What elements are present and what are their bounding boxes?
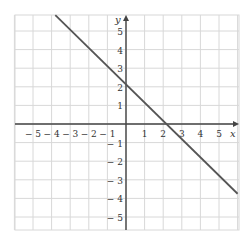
x-tick-label: 5: [216, 129, 222, 139]
y-tick-label: 1: [117, 101, 123, 111]
x-tick-label: 1: [142, 129, 148, 139]
y-tick-label: − 5: [107, 213, 123, 223]
data-line: [55, 15, 237, 194]
y-tick-label: − 4: [107, 194, 123, 204]
y-tick-label: 3: [117, 64, 123, 74]
x-tick-label: − 5: [25, 129, 41, 139]
grid-border: [15, 15, 239, 230]
x-tick-label: − 1: [99, 129, 115, 139]
y-tick-label: 4: [117, 46, 123, 56]
x-axis-label: x: [230, 128, 236, 139]
y-tick-label: − 1: [107, 139, 123, 149]
x-tick-label: − 3: [62, 129, 78, 139]
x-tick-label: 4: [198, 129, 204, 139]
x-tick-label: 2: [160, 129, 166, 139]
y-tick-label: − 2: [107, 157, 123, 167]
y-tick-label: 5: [117, 27, 123, 37]
coordinate-plane: xy− 5− 4− 3− 2− 11234554321− 1− 2− 3− 4−…: [0, 0, 246, 239]
y-tick-label: 2: [117, 83, 123, 93]
y-axis-arrow-icon: [123, 15, 129, 21]
x-tick-label: − 4: [44, 129, 60, 139]
y-tick-label: − 3: [107, 176, 123, 186]
x-tick-label: − 2: [81, 129, 97, 139]
y-axis-label: y: [114, 14, 121, 25]
